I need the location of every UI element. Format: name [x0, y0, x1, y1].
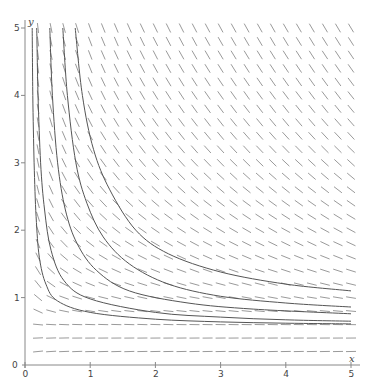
- slope-segment: [138, 283, 148, 286]
- slope-segment: [125, 283, 135, 286]
- slope-segment: [153, 24, 157, 33]
- slope-segment: [203, 297, 213, 299]
- slope-segment: [191, 132, 197, 140]
- slope-segment: [231, 37, 236, 46]
- slope-segment: [140, 118, 146, 126]
- slope-segment: [140, 37, 144, 46]
- slope-segment: [309, 64, 315, 72]
- slope-segment: [295, 187, 303, 193]
- slope-segment: [216, 255, 225, 259]
- slope-segment: [101, 77, 105, 86]
- slope-segment: [244, 78, 250, 86]
- slope-segment: [334, 159, 341, 166]
- slope-segment: [192, 37, 197, 46]
- slope-segment: [114, 91, 119, 100]
- slope-segment: [152, 173, 159, 180]
- slope-segment: [61, 240, 68, 247]
- slope-segment: [37, 171, 39, 181]
- slope-segment: [333, 269, 343, 272]
- slope-segment: [165, 186, 172, 193]
- slope-segment: [124, 311, 134, 312]
- slope-segment: [190, 269, 199, 273]
- slope-segment: [99, 255, 108, 260]
- solution-curve: [50, 28, 351, 314]
- slope-segment: [307, 269, 317, 272]
- slope-segment: [178, 146, 185, 154]
- slope-segment: [126, 186, 133, 193]
- slope-segment: [216, 283, 226, 286]
- slope-segment: [295, 214, 304, 219]
- slope-segment: [348, 92, 354, 100]
- slope-segment: [255, 283, 265, 286]
- slope-segment: [243, 132, 250, 140]
- slope-segment: [203, 255, 212, 259]
- slope-segment: [151, 283, 161, 286]
- slope-segment: [76, 23, 79, 33]
- slope-segment: [203, 228, 212, 233]
- slope-segment: [127, 118, 132, 126]
- slope-segment: [321, 173, 329, 180]
- slope-segment: [166, 118, 172, 126]
- slope-segment: [242, 311, 252, 312]
- slope-segment: [37, 23, 38, 33]
- slope-segment: [114, 132, 120, 140]
- slope-segment: [88, 118, 93, 127]
- slope-segment: [203, 311, 213, 312]
- slope-segment: [320, 311, 330, 312]
- x-tick-label: 0: [23, 369, 29, 379]
- slope-segment: [281, 228, 290, 233]
- slope-segment: [124, 297, 134, 299]
- slope-segment: [74, 213, 81, 221]
- slope-segment: [257, 51, 262, 60]
- slope-segment: [218, 64, 223, 73]
- y-tick-label: 0: [12, 360, 18, 370]
- slope-segment: [127, 37, 131, 46]
- slope-segment: [321, 228, 330, 233]
- slope-segment: [49, 172, 53, 181]
- slope-segment: [138, 255, 147, 260]
- slope-segment: [88, 159, 93, 167]
- slope-segment: [281, 297, 291, 299]
- slope-segment: [270, 37, 275, 46]
- slope-segment: [205, 64, 210, 73]
- slope-segment: [309, 105, 315, 113]
- slope-segment: [244, 51, 249, 60]
- slope-segment: [190, 311, 200, 312]
- slope-segment: [257, 119, 263, 127]
- slope-segment: [346, 297, 356, 299]
- slope-segment: [321, 159, 328, 166]
- slope-segment: [127, 23, 131, 32]
- slope-segment: [322, 91, 328, 99]
- slope-segment: [192, 78, 197, 86]
- slope-segment: [230, 214, 238, 220]
- slope-segment: [243, 187, 251, 193]
- slope-segment: [50, 104, 53, 114]
- slope-segment: [49, 199, 53, 208]
- slope-segment: [100, 186, 107, 194]
- slope-segment: [126, 159, 132, 167]
- slope-segment: [177, 241, 186, 246]
- slope-segment: [151, 255, 160, 259]
- slope-segment: [73, 254, 81, 260]
- slope-segment: [37, 144, 39, 154]
- slope-segment: [347, 159, 354, 166]
- slope-segment: [125, 255, 134, 260]
- slope-segment: [178, 159, 185, 166]
- slope-segment: [294, 269, 304, 272]
- slope-segment: [164, 228, 172, 233]
- x-tick-label: 4: [283, 369, 289, 379]
- slope-segment: [166, 78, 171, 87]
- slope-segment: [309, 119, 316, 127]
- slope-segment: [308, 146, 315, 153]
- y-axis-label: y: [27, 16, 34, 27]
- slope-segment: [86, 241, 94, 247]
- slope-segment: [114, 23, 118, 32]
- slope-segment: [320, 297, 330, 299]
- slope-segment: [205, 37, 210, 46]
- slope-segment: [164, 269, 173, 273]
- slope-segment: [283, 37, 288, 46]
- slope-segment: [48, 226, 53, 234]
- slope-segment: [179, 118, 185, 126]
- slope-segment: [268, 228, 277, 233]
- slope-segment: [204, 200, 212, 206]
